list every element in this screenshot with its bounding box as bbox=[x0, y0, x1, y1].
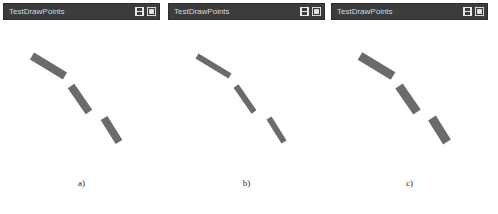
segment-3 bbox=[432, 118, 447, 142]
segment-2 bbox=[236, 86, 254, 112]
maximize-icon[interactable] bbox=[475, 7, 484, 16]
titlebar-a[interactable]: TestDrawPoints bbox=[3, 3, 160, 20]
titlebar-buttons-b bbox=[300, 7, 321, 16]
segment-3 bbox=[104, 118, 119, 142]
window-panel-b: TestDrawPoints bbox=[168, 3, 325, 170]
titlebar-buttons-c bbox=[463, 7, 484, 16]
window-panel-a: TestDrawPoints bbox=[3, 3, 160, 170]
caption-c: c) bbox=[331, 178, 488, 188]
titlebar-b[interactable]: TestDrawPoints bbox=[168, 3, 325, 20]
window-title-c: TestDrawPoints bbox=[337, 8, 393, 16]
segment-1 bbox=[360, 56, 393, 76]
segments-c bbox=[331, 20, 488, 170]
segment-2 bbox=[399, 86, 417, 112]
window-title-a: TestDrawPoints bbox=[9, 8, 65, 16]
save-icon[interactable] bbox=[300, 7, 309, 16]
draw-canvas-c[interactable] bbox=[331, 20, 488, 170]
maximize-icon[interactable] bbox=[312, 7, 321, 16]
caption-b: b) bbox=[168, 178, 325, 188]
save-icon[interactable] bbox=[463, 7, 472, 16]
segment-1 bbox=[32, 56, 65, 76]
segments-a bbox=[3, 20, 160, 170]
segment-2 bbox=[71, 86, 89, 112]
titlebar-buttons-a bbox=[135, 7, 156, 16]
draw-canvas-a[interactable] bbox=[3, 20, 160, 170]
segment-3 bbox=[269, 118, 284, 142]
caption-a: a) bbox=[3, 178, 160, 188]
window-panel-c: TestDrawPoints bbox=[331, 3, 488, 170]
segments-b bbox=[168, 20, 325, 170]
segment-1 bbox=[197, 56, 230, 76]
titlebar-c[interactable]: TestDrawPoints bbox=[331, 3, 488, 20]
draw-canvas-b[interactable] bbox=[168, 20, 325, 170]
save-icon[interactable] bbox=[135, 7, 144, 16]
window-title-b: TestDrawPoints bbox=[174, 8, 230, 16]
maximize-icon[interactable] bbox=[147, 7, 156, 16]
figure-three-panels: TestDrawPoints TestDrawPoints bbox=[0, 0, 498, 214]
